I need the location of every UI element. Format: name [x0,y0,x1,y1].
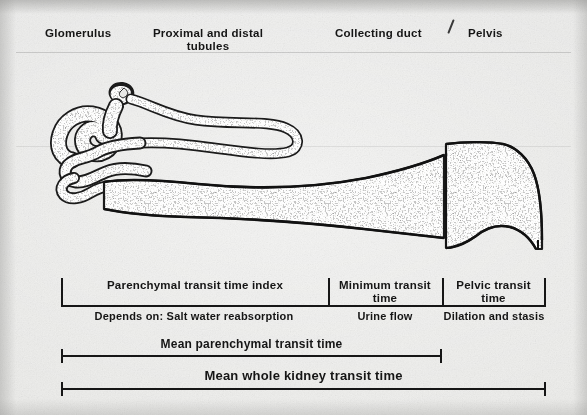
bar-label-mean-parenchymal: Mean parenchymal transit time [61,337,442,351]
collecting-duct-body [104,155,444,238]
segment-sublabel-pelvic-transit-time: Dilation and stasis [442,310,546,322]
bar-line-mean-parenchymal [61,355,442,357]
bar-tick-mean-whole-kidney-right [544,382,546,396]
segment-label-pelvic-transit-time: Pelvic transit time [445,279,542,304]
figure-canvas: Glomerulus Proximal and distal tubules C… [0,0,587,415]
scale-tick-mid-2 [442,278,444,307]
scale-tick-right [544,278,546,307]
scale-baseline [61,305,546,307]
bar-line-mean-whole-kidney [61,388,546,390]
segment-sublabel-minimum-transit-time: Urine flow [331,310,439,322]
bar-tick-mean-parenchymal-left [61,349,63,363]
loop-of-henle-descending [131,99,298,154]
segment-sublabel-parenchymal-index: Depends on: Salt water reabsorption [63,310,325,322]
scale-tick-mid-1 [328,278,330,307]
bar-tick-mean-parenchymal-right [440,349,442,363]
renal-pelvis-body [446,142,542,250]
segment-label-parenchymal-index: Parenchymal transit time index [66,279,324,292]
bar-label-mean-whole-kidney: Mean whole kidney transit time [61,368,546,383]
segment-label-minimum-transit-time: Minimum transit time [331,279,439,304]
nephron-diagram [0,0,587,415]
glomerulus [109,82,135,131]
bar-tick-mean-whole-kidney-left [61,382,63,396]
scale-tick-left [61,278,63,307]
